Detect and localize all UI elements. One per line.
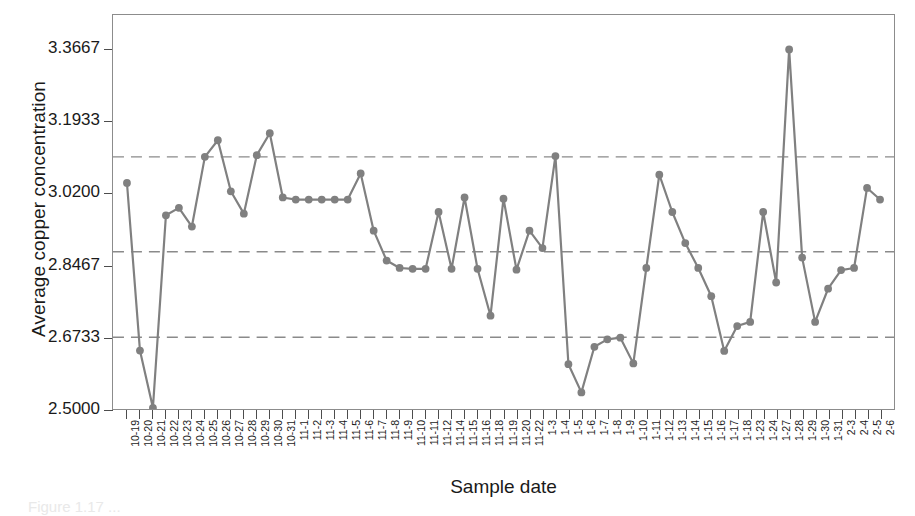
x-axis-tick — [321, 410, 322, 419]
data-point — [123, 179, 131, 187]
data-point — [500, 195, 508, 203]
x-axis-tick — [712, 410, 713, 419]
x-axis-tick — [504, 410, 505, 419]
x-axis-tick — [855, 410, 856, 419]
x-axis-tick — [282, 410, 283, 419]
x-axis-tick-label: 10-19 — [130, 420, 140, 447]
x-axis-tick — [634, 410, 635, 419]
x-axis-tick — [269, 410, 270, 419]
data-point — [772, 279, 780, 287]
y-axis-tick-label: 2.5000 — [22, 399, 100, 419]
data-point — [188, 223, 196, 231]
x-axis-tick — [399, 410, 400, 419]
data-point — [824, 285, 832, 293]
x-axis-tick-label: 11-18 — [494, 420, 504, 446]
x-axis-tick-label: 10-31 — [286, 420, 296, 447]
data-point — [279, 194, 287, 202]
x-axis-tick-label: 10-23 — [182, 420, 192, 447]
x-axis-tick — [530, 410, 531, 419]
data-point — [292, 196, 300, 204]
x-axis-tick — [647, 410, 648, 419]
x-axis-tick — [777, 410, 778, 419]
data-point — [305, 196, 313, 204]
x-axis-tick-label: 10-25 — [208, 420, 218, 447]
x-axis-tick-label: 1-8 — [612, 420, 622, 435]
x-axis-tick-label: 1-9 — [625, 420, 635, 435]
x-axis-tick-label: 11-9 — [403, 420, 413, 440]
data-point — [383, 257, 391, 265]
x-axis-tick — [738, 410, 739, 419]
data-point — [266, 129, 274, 137]
data-point — [720, 347, 728, 355]
data-point — [863, 184, 871, 192]
x-axis-tick — [360, 410, 361, 419]
x-axis-tick — [595, 410, 596, 419]
data-series-line — [127, 49, 880, 407]
x-axis-tick-label: 1-31 — [833, 420, 843, 441]
x-axis-tick-label: 10-22 — [169, 420, 179, 447]
x-axis-tick-label: 1-4 — [560, 420, 570, 435]
data-point — [694, 264, 702, 272]
data-point — [603, 335, 611, 343]
data-point — [175, 204, 183, 212]
data-point — [370, 227, 378, 235]
data-point — [474, 265, 482, 273]
x-axis-tick-label: 1-18 — [742, 420, 752, 441]
y-axis-tick-label: 3.3667 — [22, 38, 100, 58]
x-axis-tick-label: 1-15 — [703, 420, 713, 441]
x-axis-tick-label: 11-10 — [416, 420, 426, 446]
data-point — [707, 292, 715, 300]
x-axis-tick-label: 11-16 — [481, 420, 491, 446]
x-axis-tick-label: 10-29 — [260, 420, 270, 447]
x-axis-tick-label: 11-8 — [390, 420, 400, 440]
x-axis-tick-label: 10-26 — [221, 420, 231, 447]
x-axis-tick — [386, 410, 387, 419]
data-point — [214, 136, 222, 144]
x-axis-tick-label: 1-30 — [820, 420, 830, 441]
x-axis-tick — [451, 410, 452, 419]
x-axis-tick-label: 10-21 — [156, 420, 166, 447]
x-axis-tick — [829, 410, 830, 419]
x-axis-tick — [556, 410, 557, 419]
data-point — [461, 194, 469, 202]
x-axis-tick — [699, 410, 700, 419]
y-axis-tick-label: 2.8467 — [22, 255, 100, 275]
data-point-markers — [123, 46, 884, 409]
x-axis-tick-label: 11-5 — [351, 420, 361, 440]
data-point — [668, 208, 676, 216]
plot-area — [112, 14, 895, 410]
x-axis-tick-label: 11-7 — [377, 420, 387, 440]
x-axis-tick-label: 1-29 — [807, 420, 817, 441]
data-point — [837, 266, 845, 274]
x-axis-tick — [334, 410, 335, 419]
data-point — [798, 254, 806, 262]
x-axis-tick — [686, 410, 687, 419]
y-axis-tick-label: 2.6733 — [22, 327, 100, 347]
x-axis-tick — [165, 410, 166, 419]
x-axis-tick — [425, 410, 426, 419]
x-axis-tick — [842, 410, 843, 419]
x-axis-tick — [464, 410, 465, 419]
x-axis-tick — [764, 410, 765, 419]
x-axis-tick-labels: 10-1910-2010-2110-2210-2310-2410-2510-26… — [112, 420, 895, 472]
x-axis-tick — [217, 410, 218, 419]
x-axis-tick-label: 2-4 — [859, 420, 869, 435]
x-axis-tick — [803, 410, 804, 419]
x-axis-tick-label: 1-12 — [664, 420, 674, 441]
x-axis-tick — [490, 410, 491, 419]
x-axis-tick — [178, 410, 179, 419]
x-axis-ticks — [112, 410, 895, 419]
data-point — [331, 196, 339, 204]
data-point — [435, 208, 443, 216]
x-axis-tick-label: 10-24 — [195, 420, 205, 447]
data-point — [642, 264, 650, 272]
data-point — [539, 244, 547, 252]
x-axis-tick-label: 2-3 — [846, 420, 856, 435]
x-axis-tick — [790, 410, 791, 419]
x-axis-tick-label: 1-3 — [547, 420, 557, 435]
x-axis-tick — [881, 410, 882, 419]
data-point — [396, 264, 404, 272]
x-axis-tick-label: 11-6 — [364, 420, 374, 440]
data-point — [733, 322, 741, 330]
x-axis-tick-label: 10-27 — [234, 420, 244, 447]
